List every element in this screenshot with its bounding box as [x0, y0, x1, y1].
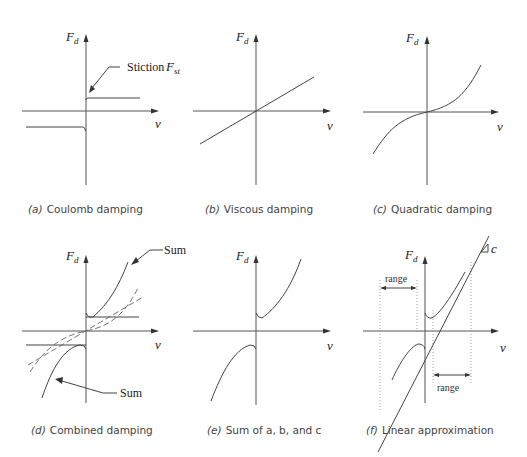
y-axis-arrow-icon	[84, 255, 89, 263]
stiction-leader-line	[92, 67, 120, 88]
range-left-label: range	[385, 273, 408, 284]
y-axis-label: Fd	[235, 29, 249, 46]
sum-lower-arrow-icon	[55, 377, 63, 384]
sum-lower-curve	[211, 345, 256, 401]
x-axis-arrow-icon	[151, 109, 159, 114]
x-axis-arrow-icon	[323, 109, 331, 114]
range-right-label: range	[437, 382, 460, 393]
y-axis-arrow-icon	[423, 256, 428, 264]
x-axis-arrow-icon	[491, 110, 499, 115]
coulomb-positive-line	[86, 98, 140, 100]
x-axis-label: v	[500, 340, 506, 355]
panel-sum-of-abc: Fd v (e)Sum of a, b, and c	[193, 248, 333, 436]
x-axis-label: v	[497, 119, 503, 134]
linear-approximation-line	[378, 236, 489, 452]
sum-upper-curve	[256, 259, 301, 318]
y-axis-arrow-icon	[254, 34, 259, 42]
sum-upper-arrow-icon	[131, 257, 139, 265]
sum-upper-label: Sum	[164, 243, 187, 257]
caption-f: (f)Linear approximation	[366, 424, 494, 436]
stiction-label: Stiction	[127, 60, 164, 74]
y-axis-arrow-icon	[254, 255, 259, 263]
slope-label: c	[491, 241, 497, 256]
panel-quadratic-damping: Fd v (c)Quadratic damping	[363, 30, 503, 215]
x-axis-arrow-icon	[323, 329, 331, 334]
caption-d: (d)Combined damping	[31, 424, 153, 436]
sum-upper-curve	[86, 262, 128, 317]
sum-lower-label: Sum	[120, 386, 143, 400]
quadratic-dashed-curve	[30, 288, 138, 372]
panel-combined-damping: Fd v Sum Sum (d)Combined damping	[22, 243, 187, 436]
y-axis-arrow-icon	[425, 36, 430, 44]
y-axis-arrow-icon	[84, 34, 89, 42]
range-right-arrow-icon	[465, 373, 471, 377]
coulomb-negative-line	[26, 127, 86, 131]
range-right-arrow-icon	[433, 373, 439, 377]
y-axis-label: Fd	[65, 248, 79, 265]
range-left-arrow-icon	[411, 286, 417, 290]
panel-viscous-damping: Fd v (b)Viscous damping	[193, 29, 333, 215]
y-axis-label: Fd	[404, 247, 418, 264]
sum-lower-curve	[392, 344, 425, 380]
x-axis-label: v	[155, 116, 161, 131]
sum-upper-leader-line	[136, 250, 163, 261]
caption-e: (e)Sum of a, b, and c	[207, 424, 322, 436]
caption-c: (c)Quadratic damping	[373, 203, 492, 215]
x-axis-label: v	[327, 338, 333, 353]
y-axis-label: Fd	[405, 30, 419, 47]
caption-a: (a)Coulomb damping	[28, 203, 143, 215]
x-axis-label: v	[327, 118, 333, 133]
panel-coulomb-damping: Fd v Stiction Fst (a)Coulomb damping	[22, 29, 180, 215]
range-left-arrow-icon	[380, 286, 386, 290]
sum-lower-leader-line	[62, 381, 117, 393]
y-axis-label: Fd	[65, 29, 79, 46]
stiction-symbol: Fst	[165, 59, 180, 76]
damping-figure: Fd v Stiction Fst (a)Coulomb damping Fd …	[0, 0, 527, 457]
x-axis-label: v	[155, 337, 161, 352]
panel-linear-approximation: Fd v range range c (f)Linear approximati…	[363, 236, 506, 452]
y-axis-label: Fd	[235, 248, 249, 265]
caption-b: (b)Viscous damping	[205, 203, 313, 215]
x-axis-arrow-icon	[491, 329, 499, 334]
x-axis-arrow-icon	[151, 329, 159, 334]
